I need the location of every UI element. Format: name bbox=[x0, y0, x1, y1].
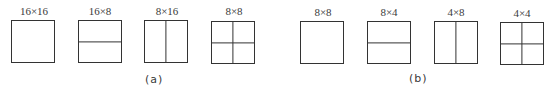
block-label: 8×4 bbox=[359, 6, 419, 18]
block-16x8-horizontal-split bbox=[78, 20, 122, 63]
block-16x16-unsplit bbox=[11, 20, 55, 63]
block-4x4-quad-split bbox=[500, 22, 544, 65]
block-label: 8×8 bbox=[204, 5, 264, 17]
block-4x8-vertical-split bbox=[434, 21, 478, 64]
horizontal-divider bbox=[368, 42, 410, 43]
block-8x8-unsplit bbox=[300, 21, 344, 64]
group-caption: (a) bbox=[145, 74, 163, 86]
block-8x16-vertical-split bbox=[144, 20, 188, 63]
vertical-divider bbox=[455, 22, 456, 63]
block-label: 4×4 bbox=[492, 7, 552, 19]
vertical-divider bbox=[232, 22, 233, 63]
group-caption: (b) bbox=[409, 73, 428, 85]
block-8x4-horizontal-split bbox=[367, 21, 411, 64]
block-label: 8×16 bbox=[137, 5, 197, 17]
vertical-divider bbox=[165, 21, 166, 62]
horizontal-divider bbox=[79, 41, 121, 42]
block-label: 16×8 bbox=[70, 5, 130, 17]
block-8x8-quad-split bbox=[211, 21, 255, 64]
block-label: 8×8 bbox=[293, 6, 353, 18]
vertical-divider bbox=[521, 23, 522, 64]
block-label: 16×16 bbox=[4, 5, 64, 17]
block-label: 4×8 bbox=[426, 6, 486, 18]
